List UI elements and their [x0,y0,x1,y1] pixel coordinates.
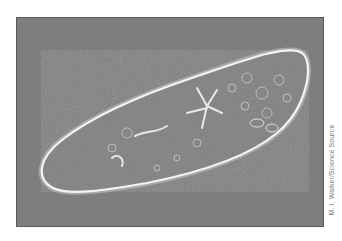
paramecium-illustration [17,18,324,227]
photo-credit: M. I. Walker/Science Source [328,125,335,216]
micrograph-image [16,17,324,227]
